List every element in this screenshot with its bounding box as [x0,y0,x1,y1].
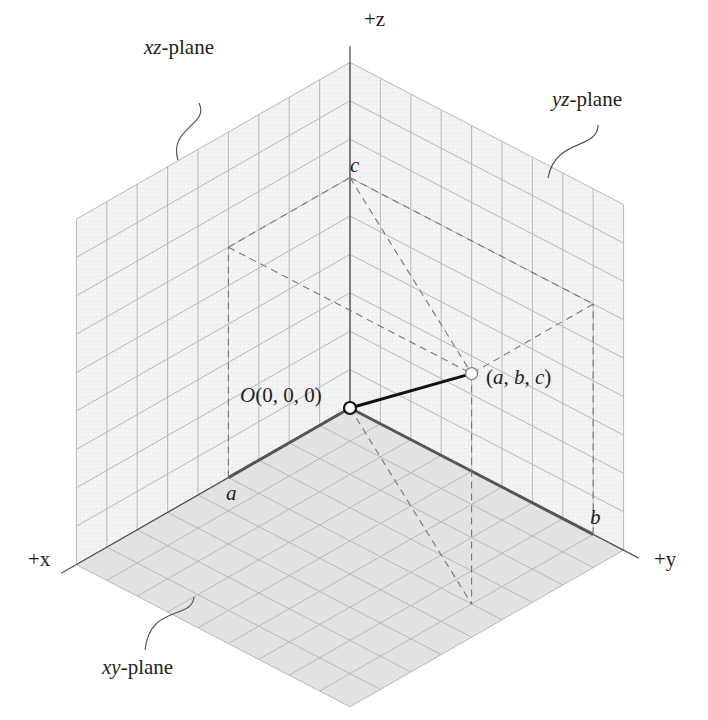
yz-plane-label: yz-plane [550,87,622,111]
xy-plane-label: xy-plane [101,655,173,679]
point-label: (a, b, c) [486,365,551,389]
origin-point [344,402,356,414]
point-abc [466,368,478,380]
c-label: c [350,153,360,177]
coordinate-diagram: +z +x +y xz-plane yz-plane xy-plane O(0,… [0,0,708,720]
xz-plane-label: xz-plane [143,35,214,59]
y-axis-label: +y [654,547,677,571]
b-label: b [590,505,601,529]
origin-label: O(0, 0, 0) [240,383,322,407]
z-axis-label: +z [364,7,385,31]
a-label: a [226,481,237,505]
x-axis-label: +x [28,547,51,571]
